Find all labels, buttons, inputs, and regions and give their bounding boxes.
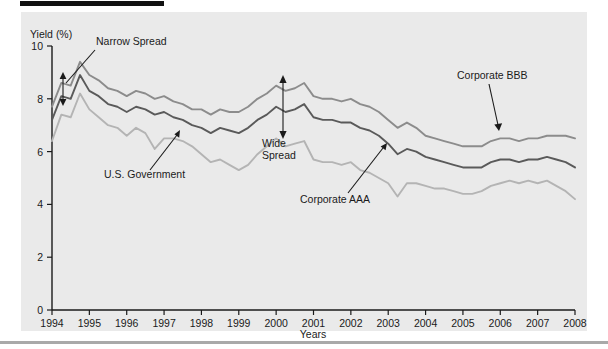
annotation-corporate-bbb-leader (489, 84, 498, 125)
x-tick-label: 1994 (40, 317, 64, 329)
annotation-wide-spread-label-line2: Spread (262, 149, 296, 161)
narrow-spread-arrowhead-top (60, 72, 67, 79)
x-tick-label: 1998 (190, 317, 214, 329)
x-axis-label: Years (300, 328, 326, 340)
x-tick-label: 2008 (563, 317, 587, 329)
y-tick-label: 10 (31, 40, 43, 52)
x-tick-label: 2000 (264, 317, 288, 329)
annotation-corporate-aaa-label: Corporate AAA (300, 193, 370, 205)
x-tick-label: 1995 (78, 317, 102, 329)
y-axis-ticks (47, 46, 52, 310)
x-tick-label: 2002 (339, 317, 363, 329)
annotation-wide-spread-label-line1: Wide (262, 137, 286, 149)
annotation-corporate-aaa-leader (348, 148, 383, 193)
x-tick-label: 2006 (489, 317, 513, 329)
wide-spread-arrowhead-top (279, 75, 286, 83)
annotation-corporate-aaa: Corporate AAA (300, 143, 387, 205)
series-line-corporate-aaa (52, 75, 575, 167)
y-tick-label: 6 (37, 146, 43, 158)
x-tick-label: 2007 (526, 317, 550, 329)
y-tick-label: 0 (37, 304, 43, 316)
x-tick-label: 2004 (414, 317, 438, 329)
x-tick-label: 1999 (227, 317, 251, 329)
x-axis-ticks (52, 310, 575, 315)
y-tick-label: 4 (37, 198, 43, 210)
y-axis-label: Yield (%) (30, 28, 72, 40)
annotation-corporate-bbb: Corporate BBB (457, 69, 528, 131)
corporate-bbb-arrowhead (494, 123, 502, 131)
y-tick-label: 2 (37, 251, 43, 263)
narrow-spread-arrowhead-bottom (60, 99, 67, 106)
annotation-narrow-spread-label: Narrow Spread (96, 35, 167, 47)
annotation-corporate-bbb-label: Corporate BBB (457, 69, 528, 81)
x-tick-label: 1997 (152, 317, 176, 329)
yield-spread-line-chart: Yield (%) 0246810 1994199519961997199819… (0, 0, 608, 349)
annotation-narrow-spread-leader (66, 50, 95, 83)
annotation-us-government-label: U.S. Government (104, 168, 185, 180)
x-tick-label: 1996 (115, 317, 139, 329)
x-tick-label: 2003 (377, 317, 401, 329)
x-tick-label: 2005 (451, 317, 475, 329)
y-tick-label: 8 (37, 93, 43, 105)
y-axis-tick-labels: 0246810 (31, 40, 43, 316)
